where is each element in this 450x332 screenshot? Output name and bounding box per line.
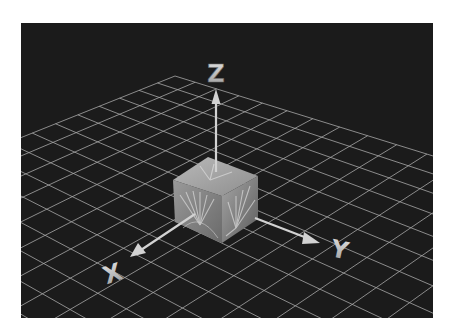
- z-axis-label: Z: [207, 60, 224, 88]
- x-axis-label: X: [99, 257, 126, 290]
- y-axis-label: Y: [327, 234, 351, 265]
- scene-canvas: Z X Y: [21, 23, 433, 318]
- x-axis-arrow: [130, 214, 195, 257]
- 3d-viewport: Z X Y: [21, 23, 433, 318]
- y-axis-arrow: [255, 218, 320, 244]
